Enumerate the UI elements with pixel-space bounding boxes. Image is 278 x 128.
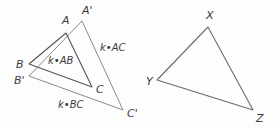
side-label-k-AC: k•AC	[100, 42, 126, 53]
geometry-canvas: AA'BB'CC'XYZ k•ABk•ACk•BC	[0, 0, 278, 128]
vertex-label-Y: Y	[146, 75, 154, 88]
triangle-a-prime-b-prime-c-prime	[29, 21, 123, 110]
side-label-k-BC: k•BC	[58, 99, 84, 110]
vertex-label-C-prime: C'	[127, 107, 138, 120]
vertex-label-A-prime: A'	[81, 4, 93, 17]
geometry-figure: AA'BB'CC'XYZ k•ABk•ACk•BC	[0, 0, 278, 128]
vertex-label-Z: Z	[255, 112, 264, 125]
vertex-label-X: X	[205, 9, 214, 22]
triangle-xyz	[157, 27, 253, 110]
vertex-label-B: B	[16, 58, 24, 71]
side-label-k-AB: k•AB	[48, 55, 74, 66]
vertex-label-C: C	[96, 83, 104, 96]
vertex-label-A: A	[61, 14, 70, 27]
vertex-label-B-prime: B'	[14, 74, 25, 87]
